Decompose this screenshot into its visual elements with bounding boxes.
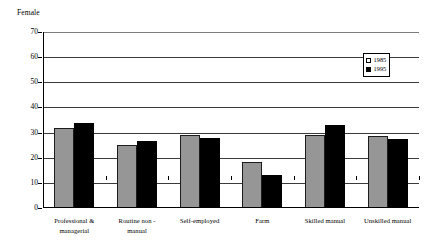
y-tick-mark — [38, 133, 42, 134]
x-tick-mark — [231, 176, 232, 180]
y-tick-label: 50 — [14, 78, 38, 86]
legend-item-1995: 1995 — [366, 65, 386, 74]
y-tick-label: 60 — [14, 53, 38, 61]
legend-item-1985: 1985 — [366, 56, 386, 65]
y-tick-mark — [38, 57, 42, 58]
x-tick-mark — [168, 176, 169, 180]
y-tick-label: 30 — [14, 129, 38, 137]
y-tick-label: 40 — [14, 103, 38, 111]
legend-swatch-icon — [366, 58, 371, 63]
chart-title: Female — [17, 8, 40, 18]
y-tick-mark — [38, 158, 42, 159]
x-category-label-line: Unskilled manual — [350, 216, 425, 226]
y-tick-label: 70 — [14, 28, 38, 36]
x-category-label: Unskilled manual — [350, 216, 425, 226]
bar-chart: Female 706050403020100 Professional &man… — [0, 0, 444, 251]
x-tick-mark — [43, 176, 44, 180]
y-tick-mark — [38, 107, 42, 108]
legend-label: 1995 — [374, 65, 387, 73]
legend-label: 1985 — [374, 56, 387, 64]
y-tick-mark — [38, 183, 42, 184]
y-tick-label: 0 — [14, 204, 38, 212]
x-tick-mark — [419, 176, 420, 180]
y-tick-mark — [38, 82, 42, 83]
chart-legend: 19851995 — [363, 53, 390, 77]
x-tick-mark — [294, 176, 295, 180]
y-tick-label: 10 — [14, 179, 38, 187]
y-axis: 706050403020100 — [12, 32, 38, 208]
x-category-label-line: manual — [100, 226, 175, 236]
x-tick-mark — [356, 176, 357, 180]
y-tick-label: 20 — [14, 154, 38, 162]
y-tick-mark — [38, 208, 42, 209]
y-tick-mark — [38, 32, 42, 33]
legend-swatch-icon — [366, 67, 371, 72]
x-tick-mark — [106, 176, 107, 180]
